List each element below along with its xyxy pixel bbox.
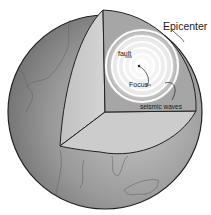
seismic-waves	[102, 26, 182, 106]
fault-label: fault	[118, 50, 131, 57]
earth-diagram: Epicenter fault Focus seismic waves	[0, 0, 211, 215]
seismic-waves-label: seismic waves	[140, 103, 183, 110]
focus-label: Focus	[129, 81, 149, 88]
epicenter-label: Epicenter	[163, 20, 208, 32]
